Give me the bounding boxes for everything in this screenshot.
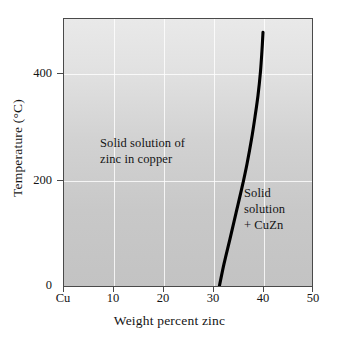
x-axis-title: Weight percent zinc	[0, 313, 339, 329]
y-tick-400	[57, 73, 63, 74]
x-ticklabel-40: 40	[257, 291, 270, 306]
y-ticklabel-0: 0	[46, 278, 52, 293]
x-ticklabel-30: 30	[207, 291, 220, 306]
y-ticklabel-200: 200	[33, 173, 52, 188]
x-ticklabel-20: 20	[157, 291, 170, 306]
phase-diagram-figure: Solid solution of zinc in copper Solid s…	[0, 0, 339, 346]
x-ticklabel-10: 10	[107, 291, 120, 306]
region-label-two-phase: Solid solution + CuZn	[244, 185, 285, 233]
region-label-solid-solution: Solid solution of zinc in copper	[100, 135, 185, 167]
x-ticklabel-cu: Cu	[56, 291, 71, 306]
y-tick-200	[57, 180, 63, 181]
solvus-line	[219, 32, 263, 287]
plot-area: Solid solution of zinc in copper Solid s…	[63, 18, 313, 287]
x-ticklabel-50: 50	[307, 291, 320, 306]
y-axis-title: Temperature (°C)	[10, 68, 26, 228]
y-ticklabel-400: 400	[33, 66, 52, 81]
